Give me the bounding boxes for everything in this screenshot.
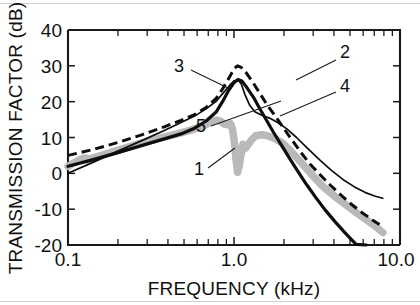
y-ticklabel-20: 20 xyxy=(41,92,62,113)
x-ticklabel-1p0: 1.0 xyxy=(221,249,247,270)
leader-line-1 xyxy=(208,148,235,168)
y-ticklabel-30: 30 xyxy=(41,56,62,77)
y-ticklabel-40: 40 xyxy=(41,20,62,41)
series-1-measured-curve xyxy=(68,120,383,232)
series-4-dashed-curve xyxy=(68,66,380,225)
curve-label-3: 3 xyxy=(174,56,184,76)
transmission-factor-chart: 40 30 20 10 0 -10 -20 xyxy=(0,0,420,305)
curve-label-5: 5 xyxy=(196,116,206,136)
x-ticklabel-0p1: 0.1 xyxy=(55,249,81,270)
chart-figure: 40 30 20 10 0 -10 -20 xyxy=(0,0,420,305)
y-ticklabel-neg10: -10 xyxy=(35,199,62,220)
curve-label-1: 1 xyxy=(194,159,204,179)
curve-label-4: 4 xyxy=(340,76,350,96)
y-ticklabel-10: 10 xyxy=(41,128,62,149)
y-ticklabel-0: 0 xyxy=(51,163,62,184)
leader-line-2 xyxy=(296,60,336,80)
y-axis-tick-labels: 40 30 20 10 0 -10 -20 xyxy=(35,20,62,256)
leader-line-3 xyxy=(191,70,228,88)
x-axis-tick-labels: 0.1 1.0 10.0 xyxy=(55,249,415,270)
x-ticklabel-10p0: 10.0 xyxy=(378,249,415,270)
curve-label-2: 2 xyxy=(340,42,350,62)
x-axis-title: FREQUENCY (kHz) xyxy=(148,278,321,299)
leader-line-4 xyxy=(280,92,336,116)
y-axis-title: TRANSMISSION FACTOR (dB) xyxy=(5,2,26,275)
